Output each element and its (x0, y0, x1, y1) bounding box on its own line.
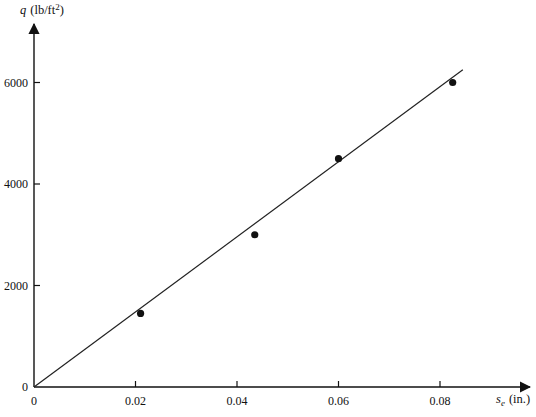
y-tick-label: 4000 (4, 177, 28, 191)
y-tick-label: 0 (22, 380, 28, 394)
x-tick-label: 0.02 (125, 394, 146, 408)
x-tick-label: 0.04 (227, 394, 248, 408)
x-tick-label: 0 (31, 394, 37, 408)
chart-canvas: 00.020.040.060.080200040006000 q(lb/ft2)… (0, 0, 536, 417)
x-axis-title: se(in.) (496, 392, 530, 408)
fit-line (34, 70, 463, 387)
data-points (137, 79, 456, 317)
data-point (449, 79, 456, 86)
y-axis-title: q(lb/ft2) (20, 2, 64, 17)
axis-labels: q(lb/ft2)se(in.) (20, 2, 530, 408)
ticks: 00.020.040.060.080200040006000 (4, 76, 451, 409)
x-tick-label: 0.08 (430, 394, 451, 408)
data-point (137, 310, 144, 317)
y-tick-label: 2000 (4, 279, 28, 293)
data-point (251, 231, 258, 238)
best-fit-line (34, 70, 463, 387)
x-tick-label: 0.06 (328, 394, 349, 408)
y-tick-label: 6000 (4, 76, 28, 90)
data-point (335, 155, 342, 162)
